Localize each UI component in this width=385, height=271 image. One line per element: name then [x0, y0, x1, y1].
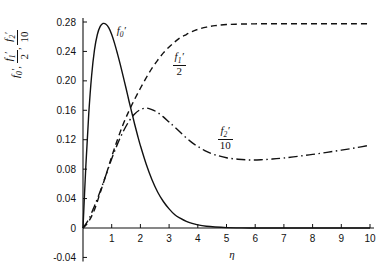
x-tick-label: 10: [364, 233, 376, 244]
y-tick-label: 0.12: [57, 134, 77, 145]
y-axis-title-f1-over-2: f1′2: [2, 50, 30, 63]
plot-area: 0.280.240.200.160.120.080.040-0.04123456…: [0, 0, 385, 271]
y-tick-label: -0.04: [53, 252, 76, 263]
x-tick-label: 8: [310, 233, 316, 244]
x-tick-label: 6: [252, 233, 258, 244]
x-tick-label: 5: [224, 233, 230, 244]
y-axis-title: f0′, f1′2, f2′10: [2, 0, 30, 78]
y-tick-label: 0.08: [57, 164, 77, 175]
y-axis-title-f2-over-10: f2′10: [2, 30, 30, 45]
y-axis-title-f0: f0′: [9, 69, 24, 78]
y-tick-label: 0.24: [57, 46, 77, 57]
x-tick-label: 1: [109, 233, 115, 244]
f2-prime-over-10-curve-label: f2′10: [218, 125, 233, 152]
x-tick-label: 9: [339, 233, 345, 244]
y-tick-label: 0.16: [57, 105, 77, 116]
x-tick-label: 2: [138, 233, 144, 244]
tick-labels-group: 0.280.240.200.160.120.080.040-0.04123456…: [53, 17, 376, 263]
figure-chart: 0.280.240.200.160.120.080.040-0.04123456…: [0, 0, 385, 271]
x-tick-label: 7: [281, 233, 287, 244]
x-tick-label: 4: [195, 233, 201, 244]
y-tick-label: 0: [70, 223, 76, 234]
y-tick-label: 0.28: [57, 17, 77, 28]
f0-prime-curve-label: f0′: [117, 25, 126, 39]
x-tick-label: 3: [166, 233, 172, 244]
y-tick-label: 0.20: [57, 75, 77, 86]
y-tick-label: 0.04: [57, 193, 77, 204]
y-axis-title-sep1: ,: [10, 66, 22, 69]
x-axis-title: η: [229, 248, 234, 260]
y-axis-title-sep2: ,: [10, 47, 22, 50]
f1-prime-over-2-curve-label: f1′2: [173, 51, 186, 78]
